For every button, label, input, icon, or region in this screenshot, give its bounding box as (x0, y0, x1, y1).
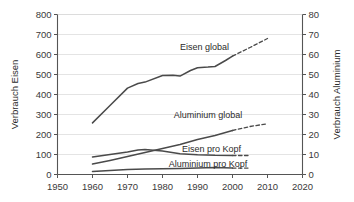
series-label-0: Eisen global (180, 42, 229, 52)
tick-label-bottom: 1960 (82, 181, 103, 192)
series-label-3: Aluminium pro Kopf (169, 159, 248, 169)
series-label-1: Aluminium global (174, 110, 243, 120)
tick-label-right: 20 (309, 129, 320, 140)
tick-label-left: 800 (36, 9, 52, 20)
chart-figure: 0100200300400500600700800010203040506070… (0, 0, 354, 202)
tick-label-right: 10 (309, 149, 320, 160)
tick-label-right: 30 (309, 109, 320, 120)
tick-label-right: 70 (309, 29, 320, 40)
tick-label-left: 200 (36, 129, 52, 140)
tick-label-bottom: 1950 (47, 181, 68, 192)
series-projection-0 (233, 39, 268, 57)
series-label-2: Eisen pro Kopf (182, 144, 242, 154)
tick-label-right: 50 (309, 69, 320, 80)
tick-label-left: 0 (46, 169, 51, 180)
tick-label-left: 500 (36, 69, 52, 80)
y-axis-title: Verbrauch Eisen (9, 60, 20, 130)
tick-label-right: 0 (309, 169, 314, 180)
tick-label-right: 40 (309, 89, 320, 100)
tick-label-right: 60 (309, 49, 320, 60)
tick-label-bottom: 1970 (117, 181, 138, 192)
series-projection-1 (233, 124, 268, 131)
tick-label-bottom: 2020 (292, 181, 313, 192)
tick-label-left: 600 (36, 49, 52, 60)
y2-axis-title: Verbrauch Aluminium (331, 50, 342, 140)
tick-label-left: 300 (36, 109, 52, 120)
line-chart: 0100200300400500600700800010203040506070… (0, 0, 354, 202)
tick-label-bottom: 1980 (152, 181, 173, 192)
tick-label-right: 80 (309, 9, 320, 20)
tick-label-bottom: 2000 (222, 181, 243, 192)
tick-label-bottom: 1990 (187, 181, 208, 192)
tick-label-bottom: 2010 (257, 181, 278, 192)
tick-label-left: 700 (36, 29, 52, 40)
tick-label-left: 100 (36, 149, 52, 160)
tick-label-left: 400 (36, 89, 52, 100)
